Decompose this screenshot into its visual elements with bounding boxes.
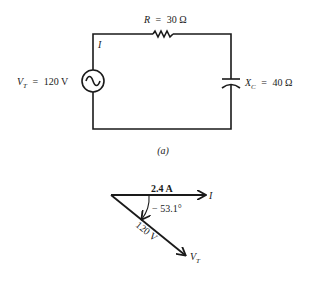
current-magnitude-label: 2.4 A [151, 183, 173, 194]
right-wire-lower [93, 84, 231, 129]
capacitor-label: XC = 40 Ω [244, 77, 292, 91]
diagram-canvas: R = 30 Ω I VT = 120 V XC = 40 Ω (a) 2.4 … [0, 0, 314, 298]
source-label: VT = 120 V [17, 76, 69, 90]
current-phasor-label: I [208, 190, 213, 201]
current-label: I [97, 39, 102, 50]
voltage-phasor-label: VT [190, 251, 201, 265]
circuit: R = 30 Ω I VT = 120 V XC = 40 Ω (a) [17, 14, 292, 157]
phasor-diagram: 2.4 A I − 53.1° 120 V VT [111, 183, 213, 265]
top-wire-left [93, 34, 153, 70]
sine-wave-icon [86, 77, 100, 86]
resistor-label: R = 30 Ω [143, 14, 187, 25]
angle-label: − 53.1° [152, 203, 182, 214]
figure-caption: (a) [157, 145, 169, 157]
voltage-magnitude-label: 120 V [134, 219, 161, 243]
angle-arc-icon [142, 196, 149, 219]
resistor-icon [153, 31, 173, 37]
top-wire-right [173, 34, 231, 79]
